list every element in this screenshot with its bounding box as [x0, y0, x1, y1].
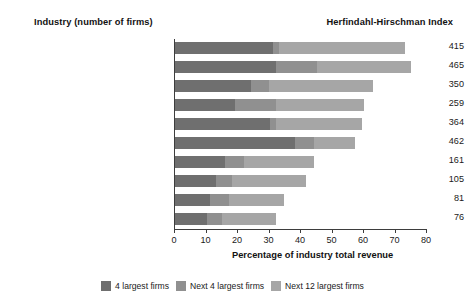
legend-item: Next 4 largest firms: [176, 281, 264, 291]
legend-item: 4 largest firms: [101, 281, 169, 291]
x-axis-title: Percentage of industry total revenue: [232, 250, 393, 260]
hhi-value: 415: [430, 41, 464, 51]
bar-segment: [229, 194, 284, 206]
legend-swatch: [176, 281, 186, 291]
bar-segment: [210, 194, 229, 206]
axis-tick-label: 0: [171, 235, 176, 245]
bar-segment: [251, 80, 270, 92]
chart-row: Fish and seafood (731)105: [174, 172, 426, 191]
axis-tick-label: 80: [421, 235, 431, 245]
bar-segment: [276, 61, 317, 73]
axis-tick: [237, 229, 238, 233]
bar-segment: [269, 80, 373, 92]
bar-segment: [216, 175, 232, 187]
bar-segment: [207, 213, 223, 225]
chart-row: Frozen foods (531)350: [174, 77, 426, 96]
chart-row: Women's and girl's clothing (2,927)76: [174, 210, 426, 229]
axis-tick-label: 10: [200, 235, 210, 245]
chart-row: Men's and boy's clothing (1,362)462: [174, 134, 426, 153]
stacked-bar: [175, 80, 373, 92]
axis-tick: [269, 229, 270, 233]
bar-segment: [175, 213, 207, 225]
bar-segment: [175, 99, 235, 111]
hhi-value: 462: [430, 136, 464, 146]
stacked-bar: [175, 99, 364, 111]
hhi-value: 350: [430, 79, 464, 89]
axis-tick: [174, 229, 175, 233]
axis-tick-label: 50: [326, 235, 336, 245]
bar-segment: [232, 175, 306, 187]
bar-segment: [175, 61, 276, 73]
chart-row: Jewelry (2,278)81: [174, 191, 426, 210]
stacked-bar: [175, 137, 355, 149]
hhi-value: 81: [430, 193, 464, 203]
bar-segment: [175, 137, 295, 149]
bar-segment: [225, 156, 244, 168]
hhi-column-header: Herfindahl-Hirschman Index: [326, 17, 453, 27]
bar-segment: [244, 156, 313, 168]
axis-tick-label: 40: [295, 235, 305, 245]
bar-segment: [175, 156, 225, 168]
plot-area: Audio and video equipment (521)415Comput…: [174, 39, 426, 229]
chart-legend: 4 largest firmsNext 4 largest firmsNext …: [0, 281, 465, 291]
stacked-bar: [175, 156, 314, 168]
hhi-value: 259: [430, 98, 464, 108]
hhi-value: 161: [430, 155, 464, 165]
chart-row: Computers (1,870)465: [174, 58, 426, 77]
legend-label: 4 largest firms: [115, 281, 169, 291]
axis-tick-label: 70: [389, 235, 399, 245]
axis-tick: [363, 229, 364, 233]
concentration-chart-figure: Industry (number of firms) Herfindahl-Hi…: [0, 0, 465, 307]
axis-tick: [395, 229, 396, 233]
legend-swatch: [271, 281, 281, 291]
bar-segment: [222, 213, 276, 225]
bar-segment: [175, 194, 210, 206]
hhi-value: 76: [430, 212, 464, 222]
axis-tick: [426, 229, 427, 233]
bar-segment: [317, 61, 412, 73]
hhi-value: 105: [430, 174, 464, 184]
legend-label: Next 12 largest firms: [285, 281, 364, 291]
axis-tick: [332, 229, 333, 233]
axis-tick: [300, 229, 301, 233]
bar-segment: [276, 99, 364, 111]
bar-segment: [235, 99, 276, 111]
bar-segment: [279, 42, 405, 54]
bar-segment: [276, 118, 363, 130]
chart-row: Book printing (690)364: [174, 115, 426, 134]
bar-segment: [314, 137, 355, 149]
bar-segment: [175, 80, 251, 92]
axis-tick-label: 60: [358, 235, 368, 245]
chart-row: Canned foods (661)259: [174, 96, 426, 115]
stacked-bar: [175, 194, 284, 206]
bar-segment: [175, 118, 270, 130]
bar-segment: [175, 42, 273, 54]
legend-item: Next 12 largest firms: [271, 281, 364, 291]
axis-tick: [206, 229, 207, 233]
chart-row: Audio and video equipment (521)415: [174, 39, 426, 58]
axis-tick-label: 20: [232, 235, 242, 245]
stacked-bar: [175, 213, 276, 225]
industry-column-header: Industry (number of firms): [34, 17, 153, 27]
legend-swatch: [101, 281, 111, 291]
stacked-bar: [175, 175, 306, 187]
stacked-bar: [175, 118, 362, 130]
bar-segment: [295, 137, 314, 149]
legend-label: Next 4 largest firms: [190, 281, 264, 291]
hhi-value: 364: [430, 117, 464, 127]
axis-tick-label: 30: [263, 235, 273, 245]
chart-row: Sporting goods (2,477)161: [174, 153, 426, 172]
stacked-bar: [175, 61, 411, 73]
bar-segment: [175, 175, 216, 187]
hhi-value: 465: [430, 60, 464, 70]
stacked-bar: [175, 42, 405, 54]
